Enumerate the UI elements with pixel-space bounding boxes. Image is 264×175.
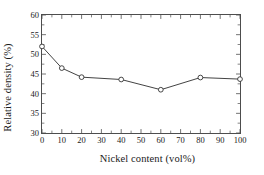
data-point: [79, 75, 84, 80]
chart-figure: Relative density (%) Nickel content (vol…: [0, 0, 264, 175]
data-point: [119, 77, 124, 82]
y-tick-label: 30: [31, 129, 40, 138]
x-tick-label: 40: [117, 136, 126, 145]
axis-ticks: [42, 15, 240, 133]
x-tick-label: 80: [196, 136, 205, 145]
x-tick-label: 30: [97, 136, 106, 145]
y-tick-label: 35: [31, 109, 40, 118]
x-tick-label: 100: [234, 136, 247, 145]
y-tick-label: 60: [31, 11, 40, 20]
x-tick-label: 0: [40, 136, 44, 145]
x-tick-label: 60: [157, 136, 166, 145]
y-tick-label: 50: [31, 50, 40, 59]
x-tick-label: 50: [137, 136, 146, 145]
y-tick-label: 40: [31, 89, 40, 98]
plot-area: 30354045505560 0102030405060708090100: [41, 14, 241, 134]
data-point: [198, 75, 203, 80]
x-tick-label: 90: [216, 136, 225, 145]
data-point: [59, 66, 64, 71]
x-axis-title: Nickel content (vol%): [40, 153, 255, 164]
data-point: [158, 87, 163, 92]
data-point: [40, 44, 45, 49]
x-tick-label: 20: [77, 136, 86, 145]
data-point: [238, 77, 243, 82]
data-line: [42, 46, 240, 89]
plot-canvas: [42, 15, 240, 133]
y-tick-label: 45: [31, 70, 40, 79]
x-tick-label: 70: [176, 136, 185, 145]
x-tick-label: 10: [58, 136, 67, 145]
y-tick-label: 55: [31, 30, 40, 39]
y-axis-title: Relative density (%): [0, 0, 14, 175]
